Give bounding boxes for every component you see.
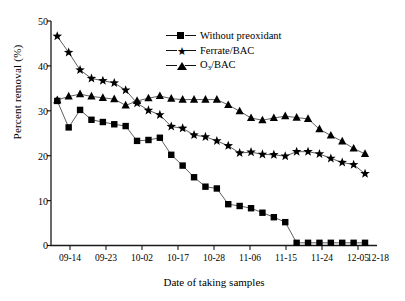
y-tick-label-30: 30 xyxy=(22,106,48,117)
chart-figure: Percent removal (%) Date of taking sampl… xyxy=(0,0,405,301)
legend-label-ferrate-bac: Ferrate/BAC xyxy=(200,43,254,58)
legend-item-without-preoxidant: Without preoxidant xyxy=(166,28,282,43)
y-tick-label-20: 20 xyxy=(22,151,48,162)
legend-label-o3-bac: O3/BAC xyxy=(200,57,236,74)
y-tick-label-50: 50 xyxy=(22,16,48,27)
y-tick-label-10: 10 xyxy=(22,196,48,207)
legend-label-without-preoxidant: Without preoxidant xyxy=(200,28,282,43)
x-tick-label-9: 12-18 xyxy=(356,253,400,263)
x-axis-title: Date of taking samples xyxy=(51,276,377,288)
y-tick-label-0: 0 xyxy=(22,240,48,251)
square-marker-icon xyxy=(166,30,196,42)
triangle-marker-icon xyxy=(166,60,196,72)
y-tick-label-40: 40 xyxy=(22,61,48,72)
legend-item-o3-bac: O3/BAC xyxy=(166,58,282,73)
legend-item-ferrate-bac: ★ Ferrate/BAC xyxy=(166,43,282,58)
star-marker-icon: ★ xyxy=(166,45,196,57)
chart-legend: Without preoxidant ★ Ferrate/BAC O3/BAC xyxy=(166,28,282,73)
